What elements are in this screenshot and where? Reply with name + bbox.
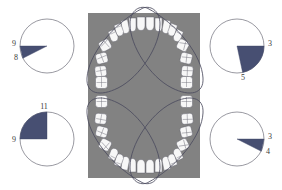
tooth-upper [95,65,108,77]
tooth-lower [181,96,193,108]
tooth-lower [155,159,162,173]
pie-wedge [20,112,47,139]
tooth-upper [146,17,154,31]
pie-label-lower: 8 [14,53,18,62]
tooth-lower [137,160,145,173]
pie-label-right: 3 [268,39,272,48]
tooth-upper [181,77,193,89]
figure-root: 9 8 3 5 11 9 3 4 [0,0,282,190]
tooth-lower [96,96,108,108]
pie-label-left: 9 [12,135,16,144]
top-right-pie-chart: 3 5 [210,19,272,82]
tooth-lower [181,113,194,125]
dental-arch-panel [87,7,203,183]
dental-figure: 9 8 3 5 11 9 3 4 [0,0,282,190]
tooth-upper [137,17,145,31]
tooth-upper [181,65,194,77]
tooth-upper [155,18,162,32]
pie-label-lower: 4 [266,147,270,156]
tooth-upper [96,77,108,89]
pie-label-top: 11 [40,102,48,111]
bottom-left-pie-chart: 11 9 [12,102,74,166]
top-left-pie-chart: 9 8 [12,19,74,73]
tooth-lower [95,113,108,125]
pie-label-upper: 9 [12,39,16,48]
pie-label-upper: 3 [268,132,272,141]
tooth-lower [146,160,154,173]
pie-label-bottom: 5 [241,73,245,82]
bottom-right-pie-chart: 3 4 [210,112,272,166]
